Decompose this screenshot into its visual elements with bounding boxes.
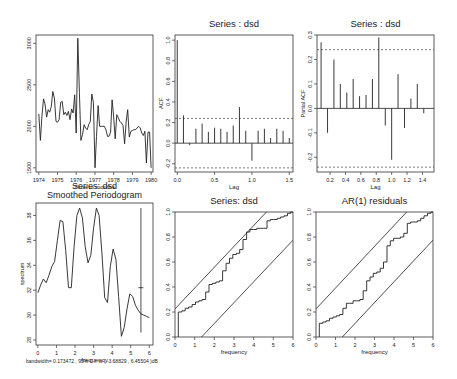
y-tick-label: 2000: [26, 120, 32, 132]
y-tick-label: 0.2: [165, 308, 171, 316]
y-tick-label: -0.2: [165, 159, 171, 168]
plot-frame: [316, 212, 433, 337]
y-tick-label: 0.6: [165, 258, 171, 266]
x-tick-label: 0.6: [357, 177, 365, 183]
x-tick-label: 2: [73, 350, 76, 356]
y-axis-label: Partial ACF: [300, 89, 306, 117]
y-tick-label: 0.0: [307, 105, 313, 113]
x-tick-label: 0.2: [326, 177, 334, 183]
y-tick-label: 0.6: [165, 78, 171, 86]
x-tick-label: 0.5: [211, 177, 219, 183]
y-tick-label: 0.8: [165, 57, 171, 65]
y-tick-label: 0.4: [306, 283, 312, 291]
x-tick-label: 1975: [51, 177, 63, 183]
time-series-plot: 1974197519761977197819791980150020002500…: [26, 35, 157, 190]
plot-frame: [175, 212, 293, 337]
x-tick-label: 5: [272, 342, 275, 348]
x-tick-label: 4: [392, 342, 395, 348]
y-tick-label: 0.2: [307, 56, 313, 64]
cumulative-step-line: [178, 212, 293, 337]
y-tick-label: 1.0: [306, 208, 312, 216]
y-tick-label: 36: [26, 237, 32, 243]
x-axis-label: Lag: [370, 184, 380, 190]
x-tick-label: 1: [334, 342, 337, 348]
bandwidth-footnote: bandwidth= 0.173472 , 95% C.I. is ( -3.6…: [26, 358, 159, 364]
x-tick-label: 1974: [33, 177, 45, 183]
x-tick-label: 1.4: [419, 177, 427, 183]
x-tick-label: 5: [129, 350, 132, 356]
x-tick-label: 6: [291, 342, 294, 348]
x-tick-label: 4: [111, 350, 114, 356]
y-tick-label: 0.6: [306, 258, 312, 266]
plot-title: Smoothed Periodogram: [47, 190, 142, 200]
x-tick-label: 6: [148, 350, 151, 356]
plot-title: Series: dsd: [210, 195, 258, 206]
y-tick-label: 3000: [26, 37, 32, 49]
y-tick-label: 0.1: [307, 80, 313, 88]
x-axis-label: frequency: [361, 349, 387, 355]
y-tick-label: 30: [26, 312, 32, 318]
y-tick-label: 1.0: [165, 208, 171, 216]
y-tick-label: 2500: [26, 79, 32, 91]
y-tick-label: 38: [26, 212, 32, 218]
x-tick-label: 0: [314, 342, 317, 348]
x-tick-label: 0: [173, 342, 176, 348]
y-tick-label: 0.3: [307, 31, 313, 39]
x-tick-label: 0.4: [342, 177, 350, 183]
y-tick-label: 0.2: [165, 119, 171, 127]
y-tick-label: 0.8: [306, 233, 312, 241]
x-tick-label: 1: [193, 342, 196, 348]
plot-title: Series : dsd: [209, 18, 259, 29]
series-line: [39, 38, 151, 168]
x-tick-label: 1.5: [285, 177, 293, 183]
x-axis-label: Lag: [229, 184, 239, 190]
cumulative-step-line: [319, 212, 433, 337]
x-tick-label: 6: [431, 342, 434, 348]
y-tick-label: 0.0: [306, 333, 312, 341]
y-axis-label: spectrum: [19, 262, 25, 285]
pacf-plot: 0.20.40.60.81.01.21.4-0.2-0.10.00.10.20.…: [300, 18, 434, 190]
x-tick-label: 1.0: [248, 177, 256, 183]
x-tick-label: 2: [353, 342, 356, 348]
acf-plot: 0.00.51.01.5-0.20.00.20.40.60.81.0LagACF…: [158, 18, 293, 190]
x-tick-label: 1980: [145, 177, 157, 183]
x-tick-label: 1.0: [388, 177, 396, 183]
x-tick-label: 3: [92, 350, 95, 356]
x-tick-label: 1979: [126, 177, 138, 183]
y-tick-label: 0.4: [165, 98, 171, 106]
cumulative-periodogram-plot: 01234560.00.20.40.60.81.0frequencySeries…: [165, 184, 295, 365]
x-tick-label: 3: [232, 342, 235, 348]
smoothed-periodogram-plot: 0123456283032343638frequencyspectrumSeri…: [19, 181, 159, 364]
spectrum-line: [38, 208, 149, 336]
y-tick-label: -0.1: [307, 128, 313, 137]
plot-title: Series : dsd: [350, 18, 400, 29]
figure-canvas: 1974197519761977197819791980150020002500…: [0, 0, 457, 379]
x-tick-label: 2: [213, 342, 216, 348]
x-tick-label: 4: [252, 342, 255, 348]
ar1-residuals-cumulative-periodogram-plot: 01234560.00.20.40.60.81.0frequencyAR(1) …: [306, 184, 435, 365]
plot-title: AR(1) residuals: [342, 195, 408, 206]
x-tick-label: 1: [55, 350, 58, 356]
y-tick-label: 0.8: [165, 233, 171, 241]
y-tick-label: 32: [26, 287, 32, 293]
y-tick-label: 34: [26, 262, 32, 268]
y-tick-label: 28: [26, 337, 32, 343]
x-tick-label: 0.0: [173, 177, 181, 183]
x-tick-label: 3: [373, 342, 376, 348]
plot-frame: [175, 35, 293, 172]
y-tick-label: -0.2: [307, 153, 313, 162]
y-axis-label: ACF: [158, 97, 164, 109]
y-tick-label: 0.0: [165, 333, 171, 341]
x-tick-label: 5: [412, 342, 415, 348]
x-tick-label: 1.2: [403, 177, 411, 183]
plot-frame: [317, 35, 434, 172]
y-tick-label: 0.0: [165, 139, 171, 147]
y-tick-label: 1.0: [165, 36, 171, 44]
x-tick-label: 0: [36, 350, 39, 356]
x-axis-label: frequency: [221, 349, 247, 355]
y-tick-label: 1500: [26, 162, 32, 174]
y-tick-label: 0.4: [165, 283, 171, 291]
y-tick-label: 0.2: [306, 308, 312, 316]
x-tick-label: 0.8: [372, 177, 380, 183]
